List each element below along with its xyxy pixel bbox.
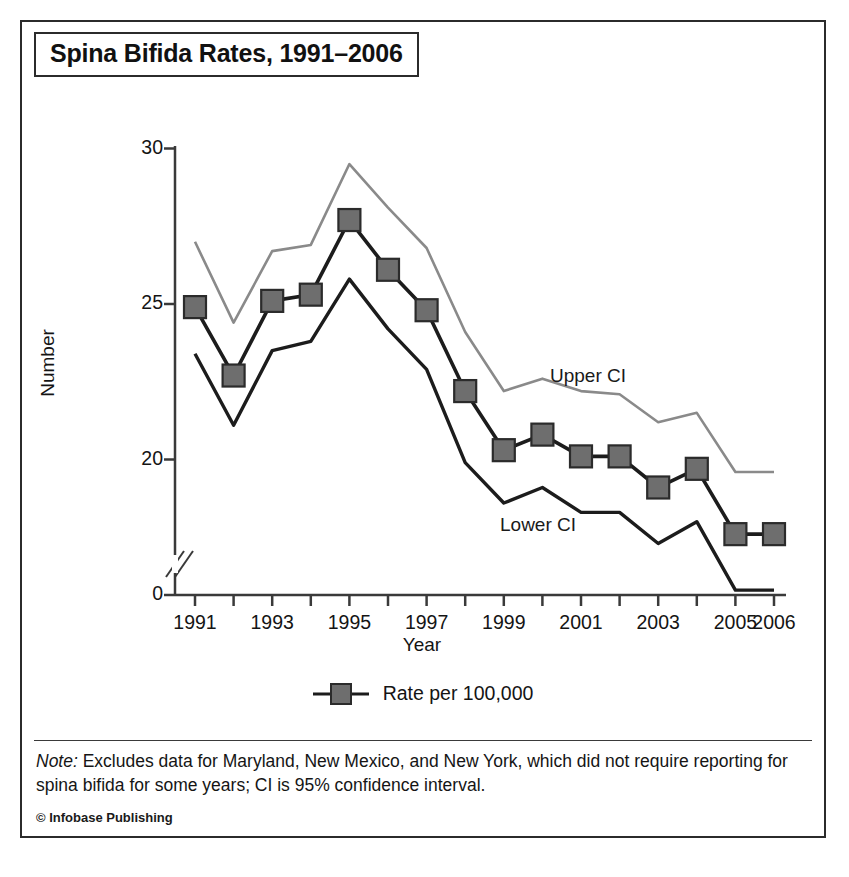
data-point-marker xyxy=(570,445,592,467)
copyright-credit: © Infobase Publishing xyxy=(36,810,173,825)
data-point-marker xyxy=(223,365,245,387)
data-point-marker xyxy=(416,299,438,321)
legend-item-label: Rate per 100,000 xyxy=(383,682,534,705)
note-body: Excludes data for Maryland, New Mexico, … xyxy=(36,751,788,795)
x-tick-label: 1997 xyxy=(387,611,467,634)
x-tick-label: 2003 xyxy=(618,611,698,634)
data-point-marker xyxy=(647,476,669,498)
data-point-marker xyxy=(184,296,206,318)
x-tick-label: 1995 xyxy=(309,611,389,634)
y-tick-label: 0 xyxy=(75,582,163,605)
x-tick-label: 2001 xyxy=(541,611,621,634)
y-tick-label: 30 xyxy=(75,136,163,159)
data-point-marker xyxy=(686,458,708,480)
series-annotation-upper-ci: Upper CI xyxy=(550,365,626,387)
x-axis-label: Year xyxy=(362,634,482,656)
data-point-marker xyxy=(338,209,360,231)
note-divider xyxy=(34,740,812,741)
note-block: Note: Excludes data for Maryland, New Me… xyxy=(36,750,808,797)
x-tick-label: 2006 xyxy=(734,611,814,634)
plot-area: Number Year 0202530 19911993199519971999… xyxy=(22,22,824,836)
data-point-marker xyxy=(261,290,283,312)
note-text: Note: Excludes data for Maryland, New Me… xyxy=(36,750,808,797)
data-point-marker xyxy=(609,445,631,467)
data-point-marker xyxy=(724,523,746,545)
figure-frame: Spina Bifida Rates, 1991–2006 Number Yea… xyxy=(20,20,826,838)
x-tick-label: 1991 xyxy=(155,611,235,634)
data-point-marker xyxy=(454,380,476,402)
note-lead: Note: xyxy=(36,751,78,771)
data-point-marker xyxy=(300,284,322,306)
y-tick-label: 25 xyxy=(75,291,163,314)
data-point-marker xyxy=(377,259,399,281)
y-axis-label: Number xyxy=(37,303,59,423)
x-tick-label: 1993 xyxy=(232,611,312,634)
series-annotation-lower-ci: Lower CI xyxy=(500,514,576,536)
data-point-marker xyxy=(763,523,785,545)
data-point-marker xyxy=(493,439,515,461)
data-point-marker xyxy=(531,424,553,446)
x-tick-label: 1999 xyxy=(464,611,544,634)
legend-marker-icon xyxy=(313,683,369,705)
y-tick-label: 20 xyxy=(75,447,163,470)
chart-legend: Rate per 100,000 xyxy=(22,682,824,705)
